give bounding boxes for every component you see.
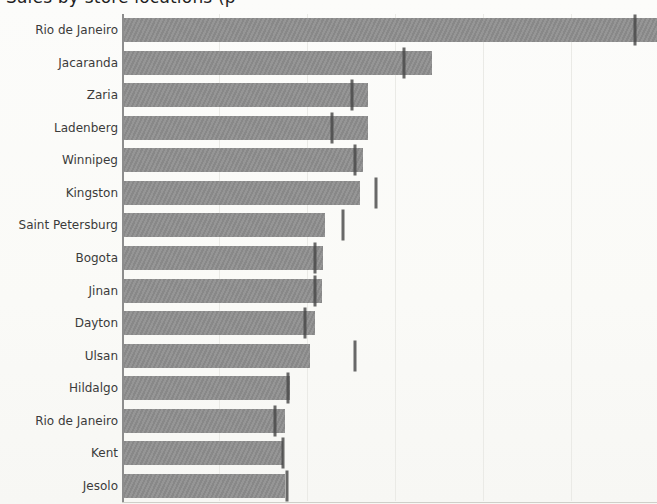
bar	[124, 181, 360, 205]
plot-area: Rio de JaneiroJacarandaZariaLadenbergWin…	[0, 0, 657, 504]
category-label: Kent	[91, 446, 118, 460]
error-tick	[342, 210, 345, 241]
error-tick	[403, 47, 406, 78]
bar	[124, 83, 368, 107]
category-label: Jesolo	[83, 479, 118, 493]
bar-chart-figure: Sales by store locations (p Rio de Janei…	[0, 0, 657, 504]
bar	[124, 246, 323, 270]
x-axis-spine	[122, 502, 657, 503]
category-label: Dayton	[75, 316, 118, 330]
error-tick	[274, 405, 277, 436]
category-label: Hildalgo	[69, 381, 118, 395]
error-tick	[287, 373, 290, 404]
category-label: Saint Petersburg	[19, 218, 118, 232]
bar	[124, 279, 322, 303]
error-tick	[375, 177, 378, 208]
category-label: Kingston	[66, 186, 118, 200]
bar	[124, 311, 315, 335]
gridline-2	[395, 14, 396, 501]
category-label: Bogota	[75, 251, 118, 265]
bar	[124, 474, 285, 498]
bar	[124, 344, 310, 368]
error-tick	[331, 112, 334, 143]
error-tick	[354, 340, 357, 371]
category-label: Zaria	[87, 88, 118, 102]
category-label: Ladenberg	[54, 121, 118, 135]
bar	[124, 213, 325, 237]
error-tick	[304, 308, 307, 339]
bar	[124, 148, 363, 172]
gridline-4	[571, 14, 572, 501]
category-label: Winnipeg	[62, 153, 118, 167]
bar	[124, 409, 285, 433]
error-tick	[314, 243, 317, 274]
error-tick	[354, 145, 357, 176]
category-label: Ulsan	[85, 349, 118, 363]
error-tick	[351, 80, 354, 111]
error-tick	[634, 15, 637, 46]
category-label: Jinan	[89, 284, 118, 298]
gridline-3	[483, 14, 484, 501]
bar	[124, 376, 290, 400]
error-tick	[282, 438, 285, 469]
category-label: Jacaranda	[58, 56, 118, 70]
bar	[124, 18, 657, 42]
category-label: Rio de Janeiro	[35, 414, 118, 428]
error-tick	[314, 275, 317, 306]
bar	[124, 441, 283, 465]
error-tick	[286, 470, 289, 501]
bar	[124, 51, 432, 75]
category-label: Rio de Janeiro	[35, 23, 118, 37]
